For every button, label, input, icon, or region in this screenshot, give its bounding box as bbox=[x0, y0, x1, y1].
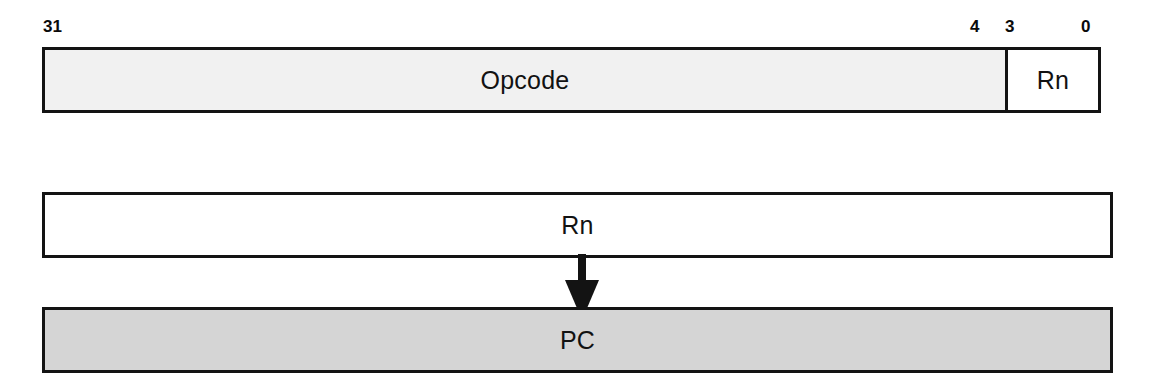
bit-label-field-boundary-high: 4 bbox=[970, 18, 979, 35]
pc-register-box: PC bbox=[42, 307, 1113, 373]
opcode-field: Opcode bbox=[42, 47, 1008, 113]
bit-label-lsb: 0 bbox=[1081, 18, 1090, 35]
instruction-encoding-diagram: 31 4 3 0 Opcode Rn Rn PC bbox=[0, 0, 1149, 391]
opcode-field-label: Opcode bbox=[481, 68, 570, 93]
rn-register-box: Rn bbox=[42, 192, 1113, 258]
rn-field: Rn bbox=[1005, 47, 1101, 113]
rn-register-label: Rn bbox=[561, 213, 593, 238]
bit-label-field-boundary-low: 3 bbox=[1005, 18, 1014, 35]
pc-register-label: PC bbox=[560, 328, 595, 353]
instruction-word: Opcode Rn bbox=[42, 47, 1101, 113]
bit-label-msb: 31 bbox=[43, 18, 62, 35]
rn-field-label: Rn bbox=[1037, 68, 1069, 93]
